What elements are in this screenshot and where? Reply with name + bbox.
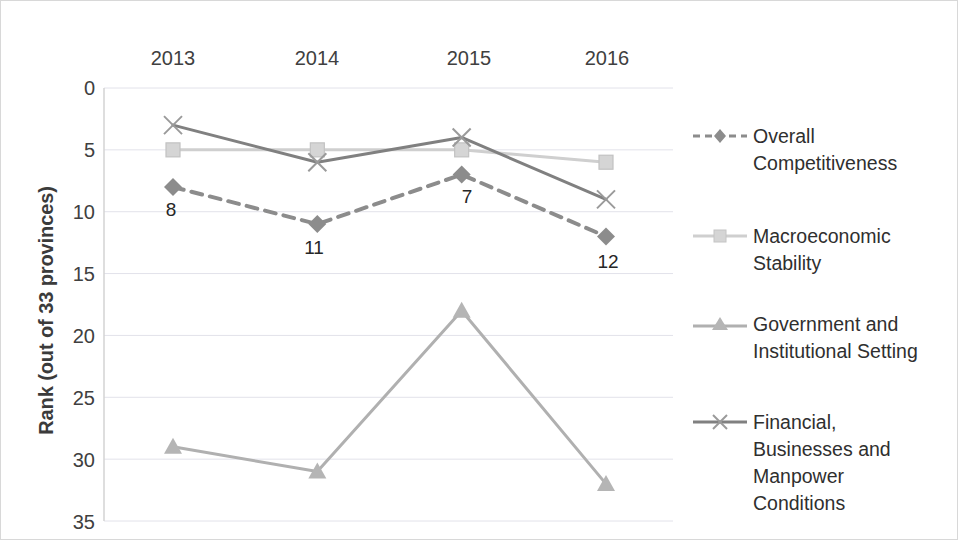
legend-label-line-1: Overall [753,123,897,150]
chart-page: Rank (out of 33 provinces) 0 5 10 15 20 … [0,0,958,540]
y-tick-0: 0 [55,78,95,98]
legend-label-overall-competitiveness: Overall Competitiveness [753,123,897,177]
legend-marker-x-icon [691,411,749,433]
legend-label-line-2: Competitiveness [753,150,897,177]
legend-entry-macroeconomic-stability[interactable]: Macroeconomic Stability [691,223,958,277]
legend-label-line-4: Conditions [753,490,891,517]
legend-label-line-1: Macroeconomic [753,223,891,250]
x-tick-2014: 2014 [277,47,357,70]
legend-marker-square-icon [691,225,749,247]
chart-legend: Overall Competitiveness Macroeconomic St… [691,1,958,540]
y-tick-5: 5 [55,140,95,160]
data-label-overall-2016: 12 [585,251,631,273]
data-label-overall-2013: 8 [148,199,194,221]
legend-marker-triangle-icon [691,313,749,335]
legend-entry-financial-businesses-manpower-conditions[interactable]: Financial, Businesses and Manpower Condi… [691,409,958,517]
x-tick-2013: 2013 [133,47,213,70]
legend-marker-diamond-icon [691,125,749,147]
legend-entry-overall-competitiveness[interactable]: Overall Competitiveness [691,123,958,177]
legend-label-government-institutional-setting: Government and Institutional Setting [753,311,918,365]
y-tick-25: 25 [55,388,95,408]
y-tick-10: 10 [55,202,95,222]
legend-label-line-2: Stability [753,250,891,277]
line-chart: Rank (out of 33 provinces) 0 5 10 15 20 … [1,1,681,540]
plot-svg [1,1,681,540]
legend-label-financial-businesses-manpower-conditions: Financial, Businesses and Manpower Condi… [753,409,891,517]
x-tick-2015: 2015 [429,47,509,70]
y-tick-20: 20 [55,326,95,346]
y-axis-tick-labels: 0 5 10 15 20 25 30 35 [51,1,95,540]
data-label-overall-2014: 11 [291,237,337,259]
legend-entry-government-institutional-setting[interactable]: Government and Institutional Setting [691,311,958,365]
x-tick-2016: 2016 [567,47,647,70]
y-tick-30: 30 [55,450,95,470]
legend-label-line-1: Government and [753,311,918,338]
legend-label-line-2: Institutional Setting [753,338,918,365]
legend-label-macroeconomic-stability: Macroeconomic Stability [753,223,891,277]
legend-label-line-3: Manpower [753,463,891,490]
legend-label-line-2: Businesses and [753,436,891,463]
data-label-overall-2015: 7 [444,186,490,208]
y-tick-35: 35 [55,512,95,532]
y-tick-15: 15 [55,264,95,284]
legend-label-line-1: Financial, [753,409,891,436]
